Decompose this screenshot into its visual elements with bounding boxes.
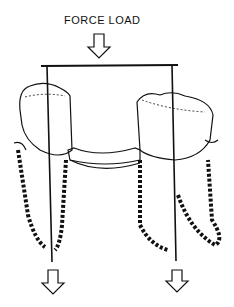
left-reaction-arrow-icon [42, 270, 64, 294]
force-arrow-icon [88, 34, 110, 58]
dental-bridge-diagram [0, 0, 234, 307]
right-tooth [137, 93, 219, 250]
left-tooth [14, 83, 72, 250]
right-reaction-arrow-icon [166, 270, 188, 292]
bridge-pontic [68, 148, 140, 168]
